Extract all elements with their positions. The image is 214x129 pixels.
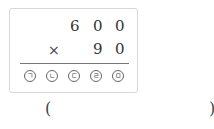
- answer-slot-rieul: ㄹ: [90, 70, 102, 82]
- multiply-operator: ×: [48, 43, 60, 57]
- answer-slot-nieun: ㄴ: [46, 70, 58, 82]
- multiplicand-digit-tens: 0: [93, 19, 103, 34]
- multiplier-digit-tens: 9: [93, 42, 103, 57]
- answer-input-blank[interactable]: [58, 100, 203, 118]
- answer-slot-digeut: ㄷ: [68, 70, 80, 82]
- result-divider-line: [20, 63, 129, 64]
- multiplication-problem-box: 6 0 0 × 9 0 ㄱ ㄴ ㄷ ㄹ ㅁ: [9, 8, 138, 93]
- answer-close-paren: ): [209, 100, 214, 118]
- answer-slot-giyeok: ㄱ: [24, 70, 36, 82]
- answer-open-paren: (: [45, 100, 51, 118]
- answer-slot-mieum: ㅁ: [112, 70, 124, 82]
- multiplier-digit-ones: 0: [115, 42, 125, 57]
- multiplicand-digit-hundreds: 6: [70, 19, 80, 34]
- multiplicand-digit-ones: 0: [115, 19, 125, 34]
